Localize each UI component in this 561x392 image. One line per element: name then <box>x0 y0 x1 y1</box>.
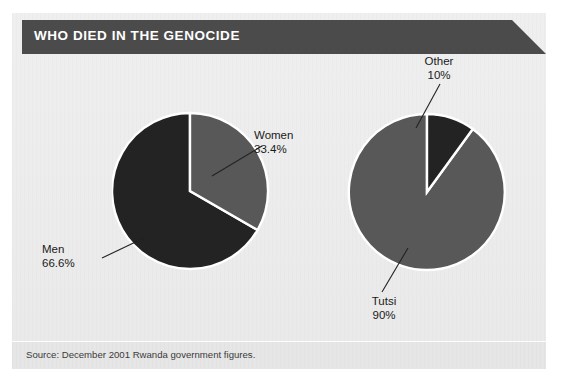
label-other: Other 10% <box>404 54 474 82</box>
leader-line-men <box>100 234 150 264</box>
label-men: Men 66.6% <box>42 242 75 270</box>
pie-chart-ethnicity <box>346 110 510 276</box>
charts-area: Women 33.4% Men 66.6% Other 10% <box>12 56 546 338</box>
source-note: Source: December 2001 Rwanda government … <box>26 349 255 360</box>
leader-line-other <box>410 82 444 132</box>
label-women: Women 33.4% <box>254 128 293 156</box>
page-title: WHO DIED IN THE GENOCIDE <box>34 28 240 43</box>
label-tutsi: Tutsi 90% <box>350 294 418 322</box>
figure-who-died-in-the-genocide: WHO DIED IN THE GENOCIDE Women 33.4% Men… <box>0 0 561 392</box>
leader-line-tutsi <box>376 246 412 296</box>
